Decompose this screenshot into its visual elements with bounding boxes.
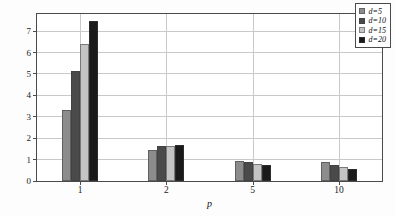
y-tick-label: 6 <box>27 48 32 58</box>
legend-item-d15[interactable]: d=15 <box>359 26 386 35</box>
y-tick-label: 4 <box>27 90 32 100</box>
bar-d20-p1 <box>89 21 98 181</box>
bar-d15-p10 <box>339 167 348 181</box>
x-tick-label: 1 <box>78 185 83 195</box>
bar-d5-p5 <box>235 161 244 181</box>
x-tick-label: 10 <box>334 185 344 195</box>
bar-d10-p1 <box>71 71 80 181</box>
bar-d5-p2 <box>148 150 157 181</box>
legend-swatch-icon <box>359 27 365 33</box>
bar-d15-p1 <box>80 44 89 181</box>
bar-d20-p2 <box>175 145 184 181</box>
y-tick-mark <box>33 116 37 117</box>
bar-d15-p5 <box>253 164 262 181</box>
legend-swatch-icon <box>359 18 365 24</box>
figure-canvas: 平均（最大-最小）距离 0123456712510 p d=5d=10d=15d… <box>0 0 395 216</box>
bar-d10-p2 <box>157 146 166 181</box>
bar-d15-p2 <box>166 146 175 181</box>
y-tick-mark <box>33 52 37 53</box>
x-gridline <box>253 14 254 181</box>
x-tick-label: 5 <box>250 185 255 195</box>
bar-d10-p5 <box>244 162 253 181</box>
y-tick-mark <box>33 31 37 32</box>
y-tick-label: 1 <box>27 155 32 165</box>
x-axis-title: p <box>36 198 383 209</box>
y-tick-label: 7 <box>27 26 32 36</box>
y-tick-label: 2 <box>27 133 32 143</box>
y-tick-mark <box>33 159 37 160</box>
bar-d20-p5 <box>262 165 271 181</box>
y-tick-mark <box>33 73 37 74</box>
x-tick-label: 2 <box>164 185 169 195</box>
y-tick-label: 3 <box>27 112 32 122</box>
x-gridline <box>339 14 340 181</box>
legend-label: d=20 <box>369 35 386 44</box>
y-tick-mark <box>33 95 37 96</box>
bar-d20-p10 <box>348 169 357 181</box>
y-tick-mark <box>33 138 37 139</box>
legend-label: d=10 <box>369 16 386 25</box>
legend-item-d20[interactable]: d=20 <box>359 35 386 44</box>
legend-item-d5[interactable]: d=5 <box>359 7 386 16</box>
y-tick-mark <box>33 181 37 182</box>
legend-label: d=15 <box>369 26 386 35</box>
plot-area: 0123456712510 <box>36 13 383 182</box>
legend-label: d=5 <box>369 7 382 16</box>
legend-swatch-icon <box>359 8 365 14</box>
bar-d10-p10 <box>330 165 339 181</box>
y-tick-label: 5 <box>27 69 32 79</box>
y-tick-label: 0 <box>27 176 32 186</box>
bar-d5-p10 <box>321 162 330 181</box>
chart-legend: d=5d=10d=15d=20 <box>355 3 391 48</box>
bar-d5-p1 <box>62 110 71 181</box>
legend-item-d10[interactable]: d=10 <box>359 16 386 25</box>
legend-swatch-icon <box>359 37 365 43</box>
